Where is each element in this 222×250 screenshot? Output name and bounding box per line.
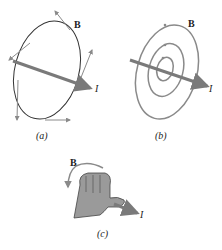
direction-marker: [162, 57, 165, 60]
current-label-i: I: [208, 83, 213, 94]
field-loop-middle: [143, 40, 190, 101]
current-arrow: [130, 60, 207, 86]
magnetic-field-figure: B I (a) B I (b) B I (c): [0, 0, 222, 250]
tangent-arrow: [17, 80, 18, 120]
current-label-i: I: [139, 209, 144, 220]
tangent-arrow: [55, 11, 70, 30]
caption-a: (a): [36, 130, 48, 142]
panel-b: B I (b): [126, 18, 213, 142]
field-label-b: B: [188, 18, 195, 29]
direction-marker: [164, 24, 167, 27]
caption-c: (c): [97, 228, 109, 240]
caption-b: (b): [155, 130, 167, 142]
tangent-arrow: [9, 43, 30, 60]
panel-c: B I (c): [68, 157, 144, 240]
panel-a: B I (a): [3, 11, 99, 142]
field-label-b: B: [70, 157, 77, 168]
current-label-i: I: [94, 83, 99, 94]
hand-icon: [74, 173, 124, 218]
tangent-arrow: [80, 50, 92, 80]
field-loop: [3, 13, 91, 126]
current-arrow: [114, 204, 137, 213]
direction-marker: [164, 44, 167, 47]
field-label-b: B: [74, 19, 81, 30]
